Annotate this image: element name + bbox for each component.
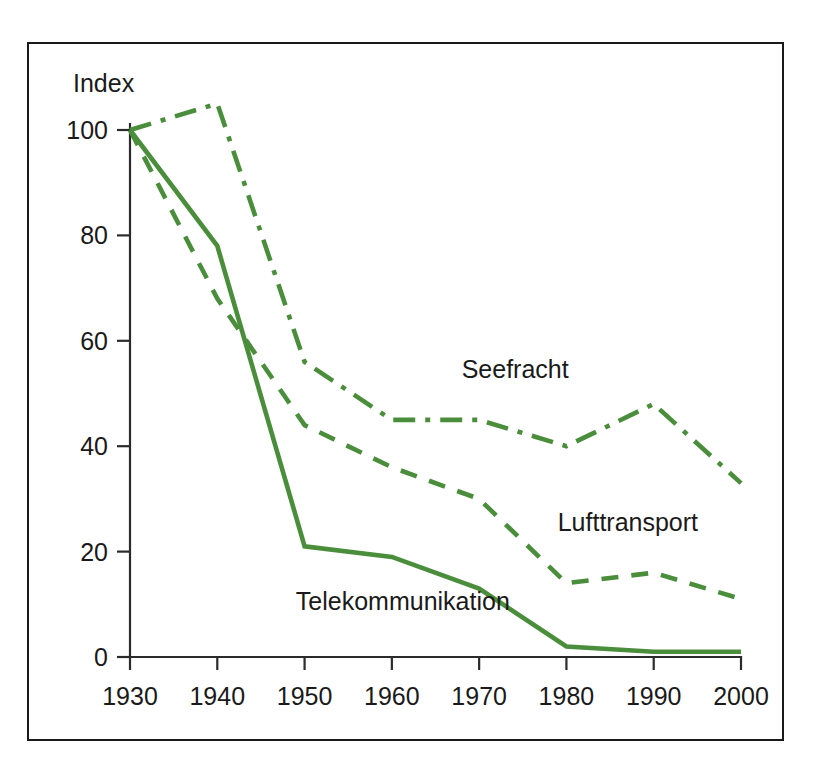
y-axis-ticks: 020406080100 [66, 116, 130, 671]
series-group [130, 104, 741, 652]
series-label-telekommunikation: Telekommunikation [296, 587, 510, 615]
x-tick-label: 1990 [626, 682, 682, 710]
series-label-lufttransport: Lufttransport [558, 508, 698, 536]
series-line-telekommunikation [130, 130, 741, 652]
series-line-seefracht [130, 104, 741, 484]
x-tick-label: 2000 [713, 682, 769, 710]
y-tick-label: 100 [66, 116, 108, 144]
y-tick-label: 60 [80, 327, 108, 355]
chart-frame: 020406080100 193019401950196019701980199… [27, 42, 784, 741]
y-tick-label: 20 [80, 538, 108, 566]
y-axis-title: Index [73, 69, 135, 97]
screenshot-root: 020406080100 193019401950196019701980199… [0, 0, 813, 780]
x-tick-label: 1930 [102, 682, 158, 710]
y-tick-label: 40 [80, 432, 108, 460]
x-tick-label: 1960 [364, 682, 420, 710]
x-axis-ticks: 19301940195019601970198019902000 [102, 657, 769, 710]
line-chart: 020406080100 193019401950196019701980199… [29, 44, 782, 739]
x-tick-label: 1970 [451, 682, 507, 710]
series-label-seefracht: Seefracht [462, 355, 569, 383]
x-tick-label: 1980 [539, 682, 595, 710]
y-tick-label: 0 [94, 643, 108, 671]
x-tick-label: 1950 [277, 682, 333, 710]
x-tick-label: 1940 [189, 682, 245, 710]
y-tick-label: 80 [80, 221, 108, 249]
